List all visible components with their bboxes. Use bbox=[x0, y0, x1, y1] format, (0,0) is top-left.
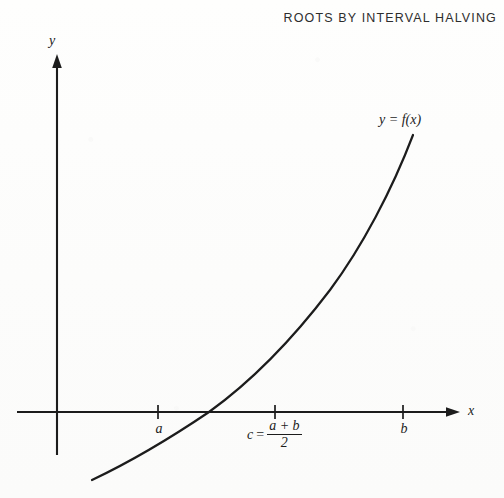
fraction-numerator: a + b bbox=[267, 419, 301, 434]
midpoint-fraction: a + b 2 bbox=[267, 419, 301, 450]
tick-label-c-midpoint: c = a + b 2 bbox=[247, 419, 302, 450]
figure-root: ROOTS BY INTERVAL HALVING y x y = f(x) a… bbox=[0, 0, 504, 498]
y-axis-label: y bbox=[49, 33, 55, 49]
midpoint-equals: = bbox=[256, 427, 264, 443]
tick-label-a: a bbox=[149, 421, 169, 437]
y-axis-arrowhead bbox=[52, 54, 62, 68]
midpoint-lhs: c bbox=[247, 427, 253, 443]
x-axis-arrowhead bbox=[446, 407, 460, 417]
fraction-denominator: 2 bbox=[279, 435, 290, 450]
curve-label: y = f(x) bbox=[379, 112, 421, 128]
y-axis bbox=[52, 54, 62, 455]
x-axis-label: x bbox=[468, 403, 474, 419]
tick-label-b: b bbox=[394, 421, 414, 437]
x-axis bbox=[17, 407, 460, 417]
